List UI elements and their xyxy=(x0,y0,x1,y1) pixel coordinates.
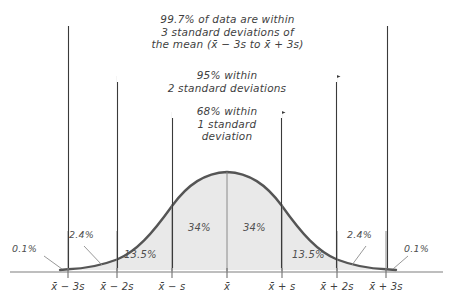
bracket-label-three-sd: 99.7% of data are within 3 standard devi… xyxy=(0,13,455,51)
bracket-three-sd-line3: the mean (x̄ − 3s to x̄ + 3s) xyxy=(0,38,455,51)
bell-curve-fill xyxy=(60,172,396,270)
leader-left-outer xyxy=(44,256,62,269)
percent-label-left-tail: 2.4% xyxy=(69,229,94,240)
bracket-two-sd-line2: 2 standard deviations xyxy=(117,82,337,95)
bracket-three-sd-line2: 3 standard deviations of xyxy=(0,26,455,39)
percent-label-right-mid: 13.5% xyxy=(292,249,325,260)
percent-label-right-outer: 0.1% xyxy=(404,243,429,254)
axis-label-minus-1s: x̄ − s xyxy=(144,281,200,292)
bracket-label-two-sd: 95% within 2 standard deviations xyxy=(117,69,337,94)
empirical-rule-figure: 99.7% of data are within 3 standard devi… xyxy=(0,0,455,303)
percent-label-right-tail: 2.4% xyxy=(347,229,372,240)
leader-right-outer xyxy=(393,256,408,269)
percent-label-left-outer: 0.1% xyxy=(12,243,37,254)
percent-label-left-mid: 13.5% xyxy=(124,249,157,260)
bracket-three-sd-line1: 99.7% of data are within xyxy=(0,13,455,26)
leader-right-tail xyxy=(352,246,366,265)
bracket-one-sd-line1: 68% within xyxy=(172,105,282,118)
bracket-one-sd-line2: 1 standard xyxy=(172,118,282,131)
axis-label-plus-1s: x̄ + s xyxy=(254,281,310,292)
leader-left-tail xyxy=(84,246,102,265)
bracket-one-sd-line3: deviation xyxy=(172,130,282,143)
axis-label-mean: x̄ xyxy=(207,281,247,292)
bracket-label-one-sd: 68% within 1 standard deviation xyxy=(172,105,282,143)
percent-label-left-center: 34% xyxy=(188,222,211,233)
percent-label-right-center: 34% xyxy=(243,222,266,233)
axis-label-minus-2s: x̄ − 2s xyxy=(87,281,147,292)
sd-division-lines xyxy=(68,172,386,271)
axis-label-plus-3s: x̄ + 3s xyxy=(356,281,416,292)
bell-curve-area xyxy=(60,172,396,270)
bracket-two-sd-line1: 95% within xyxy=(117,69,337,82)
